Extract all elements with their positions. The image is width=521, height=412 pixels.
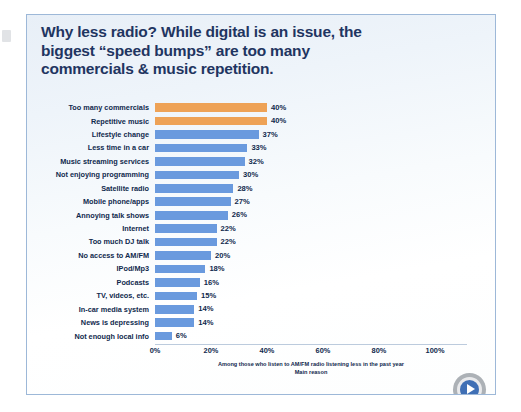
bar-value-label: 26% — [232, 211, 247, 219]
bar — [155, 211, 228, 220]
bar — [155, 251, 211, 260]
bar-row: Lifestyle change37% — [27, 128, 495, 141]
bar-row: Mobile phone/apps27% — [27, 195, 495, 208]
bar — [155, 318, 194, 327]
logo-play-triangle — [467, 384, 475, 394]
bar — [155, 103, 267, 112]
bar-row: Too many commercials40% — [27, 101, 495, 114]
bar-value-label: 15% — [201, 292, 216, 300]
bar — [155, 130, 259, 139]
bar-value-label: 40% — [271, 104, 286, 112]
bar-row: Too much DJ talk22% — [27, 235, 495, 248]
bar-category-label: Annoying talk shows — [27, 212, 155, 219]
title-line-1: Why less radio? While digital is an issu… — [41, 23, 481, 42]
bar-category-label: Too many commercials — [27, 104, 155, 111]
bar-category-label: TV, videos, etc. — [27, 292, 155, 299]
bar — [155, 265, 205, 274]
x-tick-label: 40% — [260, 346, 275, 355]
bar-track: 33% — [155, 141, 495, 154]
bar-value-label: 32% — [249, 158, 264, 166]
x-axis-line — [155, 344, 467, 345]
bar-track: 22% — [155, 235, 495, 248]
bar-row: Repetitive music40% — [27, 114, 495, 127]
bar-value-label: 22% — [221, 238, 236, 246]
bar-track: 22% — [155, 222, 495, 235]
bar-chart: Too many commercials40%Repetitive music4… — [27, 101, 495, 394]
bar-category-label: News is depressing — [27, 319, 155, 326]
bar-value-label: 6% — [176, 332, 187, 340]
bar-series: Too many commercials40%Repetitive music4… — [27, 101, 495, 343]
bar-value-label: 14% — [198, 305, 213, 313]
edge-artifact — [2, 30, 11, 42]
bar — [155, 278, 200, 287]
bar-category-label: Internet — [27, 225, 155, 232]
bar-row: No access to AM/FM20% — [27, 249, 495, 262]
bar-value-label: 33% — [251, 144, 266, 152]
x-tick-label: 100% — [426, 346, 445, 355]
bar-category-label: Podcasts — [27, 279, 155, 286]
bar-track: 6% — [155, 329, 495, 342]
bar-category-label: IPod/Mp3 — [27, 265, 155, 272]
bar — [155, 292, 197, 301]
bar — [155, 184, 233, 193]
bar — [155, 224, 217, 233]
bar-track: 15% — [155, 289, 495, 302]
bar-row: Internet22% — [27, 222, 495, 235]
x-tick-label: 60% — [316, 346, 331, 355]
bar-row: Not enough local info6% — [27, 329, 495, 342]
bar-category-label: Not enough local info — [27, 333, 155, 340]
bar-category-label: Not enjoying programming — [27, 171, 155, 178]
bar-row: In-car media system14% — [27, 303, 495, 316]
bar-value-label: 37% — [263, 131, 278, 139]
bar-track: 40% — [155, 114, 495, 127]
x-tick-label: 0% — [150, 346, 161, 355]
bar-category-label: Satellite radio — [27, 185, 155, 192]
bar-row: Less time in a car33% — [27, 141, 495, 154]
page-title: Why less radio? While digital is an issu… — [27, 15, 495, 79]
bar-track: 16% — [155, 276, 495, 289]
bar-track: 26% — [155, 209, 495, 222]
bar-value-label: 16% — [204, 279, 219, 287]
bar-category-label: Repetitive music — [27, 118, 155, 125]
bar-row: Satellite radio28% — [27, 182, 495, 195]
bar-category-label: Mobile phone/apps — [27, 198, 155, 205]
bar — [155, 197, 231, 206]
title-line-2: biggest “speed bumps” are too many — [41, 42, 481, 61]
bar-row: Annoying talk shows26% — [27, 209, 495, 222]
bar-track: 27% — [155, 195, 495, 208]
bar-category-label: Music streaming services — [27, 158, 155, 165]
bar-row: Podcasts16% — [27, 276, 495, 289]
bar-track: 14% — [155, 303, 495, 316]
bar-row: Music streaming services32% — [27, 155, 495, 168]
bar-value-label: 20% — [215, 252, 230, 260]
bar-value-label: 30% — [243, 171, 258, 179]
bar-row: TV, videos, etc.15% — [27, 289, 495, 302]
bar-category-label: No access to AM/FM — [27, 252, 155, 259]
x-tick-label: 20% — [204, 346, 219, 355]
play-circle-logo-icon — [453, 373, 486, 395]
bar-track: 28% — [155, 182, 495, 195]
bar-row: IPod/Mp318% — [27, 262, 495, 275]
chart-footnote: Among those who listen to AM/FM radio li… — [155, 360, 467, 376]
x-tick-label: 80% — [372, 346, 387, 355]
bar-value-label: 27% — [235, 198, 250, 206]
bar — [155, 157, 245, 166]
bar — [155, 238, 217, 247]
bar-track: 18% — [155, 262, 495, 275]
bar-value-label: 40% — [271, 117, 286, 125]
bar — [155, 305, 194, 314]
bar-track: 37% — [155, 128, 495, 141]
bar-value-label: 14% — [198, 319, 213, 327]
bar-row: Not enjoying programming30% — [27, 168, 495, 181]
footnote-line-2: Main reason — [155, 368, 467, 376]
bar-category-label: Lifestyle change — [27, 131, 155, 138]
bar-track: 32% — [155, 155, 495, 168]
bar-track: 40% — [155, 101, 495, 114]
bar — [155, 171, 239, 180]
bar-value-label: 22% — [221, 225, 236, 233]
bar-category-label: Too much DJ talk — [27, 238, 155, 245]
bar-track: 30% — [155, 168, 495, 181]
bar-track: 20% — [155, 249, 495, 262]
slide-frame: Why less radio? While digital is an issu… — [26, 14, 496, 395]
bar-value-label: 18% — [209, 265, 224, 273]
